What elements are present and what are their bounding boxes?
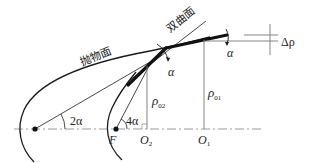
mirror-segment-upper	[166, 35, 227, 48]
label-o2: O2	[140, 133, 153, 148]
label-focus-f: F	[108, 133, 117, 147]
angle-arc-2alpha	[61, 114, 65, 129]
ray-2alpha	[35, 55, 162, 129]
label-rho-02: ρ02	[151, 93, 166, 110]
right-angle-o2	[142, 124, 147, 129]
label-4alpha: 4α	[126, 114, 139, 128]
label-2alpha: 2α	[70, 114, 83, 128]
label-alpha-right: α	[227, 46, 234, 60]
focus-f-dot	[113, 126, 118, 131]
left-focus-dot	[32, 126, 37, 131]
parabola-hyperbola-diagram: 抛物面 双曲面 α α Δρ ρ02 ρ01 2α 4α F O2 O1	[0, 0, 310, 163]
label-rho-01: ρ01	[207, 85, 222, 102]
label-alpha-left: α	[168, 65, 175, 79]
label-paraboloid: 抛物面	[78, 43, 114, 68]
label-o1: O1	[198, 133, 211, 148]
arrow-head-left-icon	[166, 57, 170, 62]
label-delta-rho: Δρ	[281, 35, 295, 49]
